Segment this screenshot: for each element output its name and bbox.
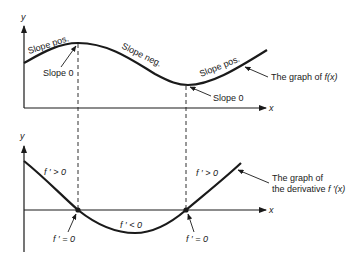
f-prime-zero-right-label: f ′ = 0 bbox=[186, 234, 208, 244]
slope-zero-max-label: Slope 0 bbox=[43, 68, 74, 78]
slope-zero-min-pointer bbox=[190, 87, 211, 96]
f-prime-zero-right-pointer bbox=[188, 214, 194, 232]
f-prime-caption-line1: The graph of bbox=[272, 173, 324, 183]
bottom-y-axis-label: y bbox=[19, 131, 25, 141]
f-prime-zero-left-pointer bbox=[68, 214, 76, 232]
f-prime-caption-line2: the derivative f ′(x) bbox=[272, 184, 345, 194]
bottom-x-axis-label: x bbox=[268, 205, 274, 215]
zero-point-right bbox=[183, 207, 188, 212]
f-prime-positive-right-label: f ′ > 0 bbox=[196, 168, 218, 178]
top-x-axis-label: x bbox=[268, 103, 274, 113]
top-graph: y x Slope pos. Slope neg. Slope pos. Slo… bbox=[20, 12, 338, 113]
f-prime-graph-pointer bbox=[238, 170, 269, 183]
f-prime-positive-left-label: f ′ > 0 bbox=[44, 167, 66, 177]
slope-zero-max-pointer bbox=[61, 46, 76, 67]
zero-point-left bbox=[75, 207, 80, 212]
slope-pos-left-label: Slope pos. bbox=[27, 33, 71, 56]
function-derivative-diagram: y x Slope pos. Slope neg. Slope pos. Slo… bbox=[0, 0, 360, 264]
f-graph-caption-fn: f(x) bbox=[325, 72, 338, 82]
slope-zero-min-label: Slope 0 bbox=[213, 93, 244, 103]
bottom-graph: y x f ′ > 0 f ′ < 0 f ′ > 0 f ′ = 0 f ′ … bbox=[19, 131, 345, 252]
f-graph-caption-prefix: The graph of bbox=[271, 72, 325, 82]
f-prime-zero-left-label: f ′ = 0 bbox=[53, 234, 75, 244]
f-prime-negative-label: f ′ < 0 bbox=[120, 220, 142, 230]
f-graph-pointer bbox=[245, 67, 268, 77]
f-prime-caption-prefix: the derivative bbox=[272, 184, 328, 194]
f-prime-caption-fn: f ′(x) bbox=[328, 184, 345, 194]
top-y-axis-label: y bbox=[20, 12, 26, 22]
slope-pos-right-label: Slope pos. bbox=[198, 54, 241, 79]
f-graph-caption: The graph of f(x) bbox=[271, 72, 338, 82]
